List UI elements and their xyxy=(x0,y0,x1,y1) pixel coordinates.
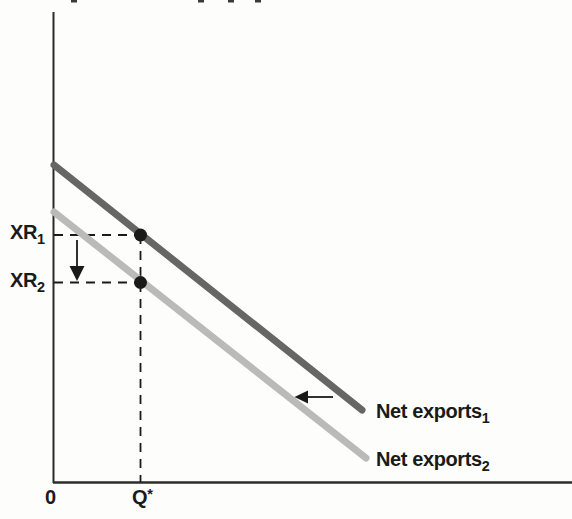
curve-net-exports-2 xyxy=(54,212,366,458)
y-axis-label-xr2-base: XR xyxy=(10,269,37,291)
y-axis-label-xr1-subscript: 1 xyxy=(37,231,45,247)
y-axis-label-xr2: XR2 xyxy=(10,270,45,294)
curve-net-exports-1 xyxy=(54,165,362,410)
net-exports-exchange-rate-diagram: XR1 XR2 0 Q* Net exports1 Net exports2 xyxy=(0,0,572,519)
curve-label-net-exports-2: Net exports2 xyxy=(376,449,489,473)
y-axis-label-xr1: XR1 xyxy=(10,222,45,246)
equilibrium-dot-2 xyxy=(134,276,147,289)
chart-canvas xyxy=(0,0,572,519)
origin-label: 0 xyxy=(45,487,56,507)
cropped-text-fragment xyxy=(71,0,77,3)
curve-label-net-exports-1: Net exports1 xyxy=(376,401,489,425)
arrow-exchange-rate-falls-head xyxy=(70,266,85,281)
cropped-text-fragment xyxy=(255,0,261,3)
y-axis-label-xr1-base: XR xyxy=(10,221,37,243)
curve-label-net-exports-1-base: Net exports xyxy=(376,400,482,422)
curve-label-net-exports-2-base: Net exports xyxy=(376,448,482,470)
curve-label-net-exports-1-subscript: 1 xyxy=(482,410,490,426)
cropped-text-fragment xyxy=(228,0,234,3)
cropped-text-fragment xyxy=(198,0,204,3)
equilibrium-dot-1 xyxy=(134,229,147,242)
y-axis-label-xr2-subscript: 2 xyxy=(37,279,45,295)
x-axis-label-qstar-superscript: * xyxy=(147,486,152,502)
x-axis-label-qstar-base: Q xyxy=(132,486,147,508)
x-axis-label-qstar: Q* xyxy=(132,487,152,507)
curve-label-net-exports-2-subscript: 2 xyxy=(482,458,490,474)
